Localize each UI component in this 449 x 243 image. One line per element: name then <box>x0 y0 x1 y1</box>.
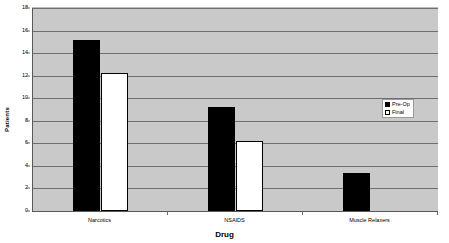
bars-layer <box>33 8 438 211</box>
legend-label: Final <box>392 110 404 116</box>
bar-final <box>101 73 128 211</box>
x-axis-tick-label: Muscle Relaxers <box>349 218 390 224</box>
y-axis-tick-mark <box>26 30 30 31</box>
y-axis-tick-mark <box>26 120 30 121</box>
bar-final <box>236 141 263 211</box>
legend-item: Final <box>385 110 410 116</box>
y-axis-tick-mark <box>26 143 30 144</box>
x-axis-tick-label: Narcotics <box>88 218 111 224</box>
x-axis-tick-mark <box>437 212 438 215</box>
legend-swatch-icon <box>385 102 390 107</box>
legend-swatch-icon <box>385 110 390 115</box>
bar-pre-op <box>343 173 370 211</box>
y-axis-tick-mark <box>26 188 30 189</box>
bar-pre-op <box>208 107 235 211</box>
y-axis-tick-labels: 024681012141618 <box>14 8 30 211</box>
y-axis-tick-mark <box>26 53 30 54</box>
bar-pre-op <box>73 40 100 211</box>
x-axis-tick-label: NSAIDS <box>224 218 244 224</box>
y-axis-tick-mark <box>26 165 30 166</box>
chart-legend: Pre-OpFinal <box>382 99 414 118</box>
y-axis-tick-mark <box>26 211 30 212</box>
x-axis-tick-mark <box>167 212 168 215</box>
y-axis-tick-mark <box>26 98 30 99</box>
x-axis-title: Drug <box>0 231 449 239</box>
y-axis-tick-mark <box>26 75 30 76</box>
legend-item: Pre-Op <box>385 102 410 108</box>
plot-area <box>32 8 438 212</box>
x-axis-tick-mark <box>302 212 303 215</box>
bar-chart: Patients 024681012141618 NarcoticsNSAIDS… <box>0 0 449 243</box>
y-axis-title: Patients <box>0 84 14 156</box>
legend-label: Pre-Op <box>392 102 410 108</box>
y-axis-tick-mark <box>26 8 30 9</box>
